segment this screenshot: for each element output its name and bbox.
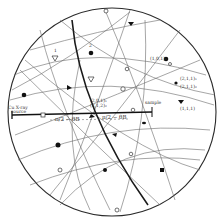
pole xyxy=(41,113,45,117)
arc xyxy=(12,12,130,90)
pole-label-right-3: (1,1,1) xyxy=(180,106,195,111)
pole xyxy=(22,93,27,98)
pole xyxy=(174,81,177,84)
pole xyxy=(52,56,58,61)
primitive-circle xyxy=(8,8,216,216)
pole xyxy=(121,87,125,91)
beam-line xyxy=(12,112,152,115)
index-label-2: 2 xyxy=(89,43,92,48)
pole xyxy=(115,208,119,212)
source-label-line2: source xyxy=(11,109,27,114)
arc xyxy=(105,10,175,200)
arc xyxy=(60,149,205,205)
pole-label-right-1: (2,1,1)₁ xyxy=(180,76,197,81)
pole xyxy=(58,168,62,172)
angle-label-left: π/2 − θB xyxy=(55,116,79,122)
arc xyxy=(20,70,160,205)
sample-label: sample xyxy=(145,100,162,105)
pole xyxy=(128,22,134,26)
pole xyxy=(89,51,94,56)
pole xyxy=(112,133,117,137)
pole xyxy=(142,122,146,125)
pole-label-right-2: (2,1,1)₂ xyxy=(180,84,197,89)
pole xyxy=(129,152,133,156)
pole-label-upper-right: (1,0,1)₁ xyxy=(150,56,167,61)
arc xyxy=(72,60,90,210)
stereographic-projection: Cu X-ray source π/2 − θB π/2 − θB (2,0,1… xyxy=(0,0,224,221)
pole-label-center-2: (2,1,2)₂ xyxy=(90,103,107,108)
pole xyxy=(56,143,61,148)
index-label-1: 1 xyxy=(54,48,57,53)
pole xyxy=(125,67,129,71)
pole xyxy=(88,77,94,82)
arc xyxy=(30,158,200,185)
filled-poles xyxy=(22,22,184,172)
pole xyxy=(104,9,108,13)
arc xyxy=(14,58,206,76)
arc xyxy=(18,128,210,160)
great-circle-arcs xyxy=(10,10,215,212)
arc xyxy=(30,20,160,50)
pole xyxy=(131,108,135,112)
pole xyxy=(103,168,107,172)
pole xyxy=(160,168,164,172)
pole xyxy=(178,100,184,104)
pole xyxy=(169,63,172,66)
angle-label-right: π/2 − θB xyxy=(102,114,126,120)
